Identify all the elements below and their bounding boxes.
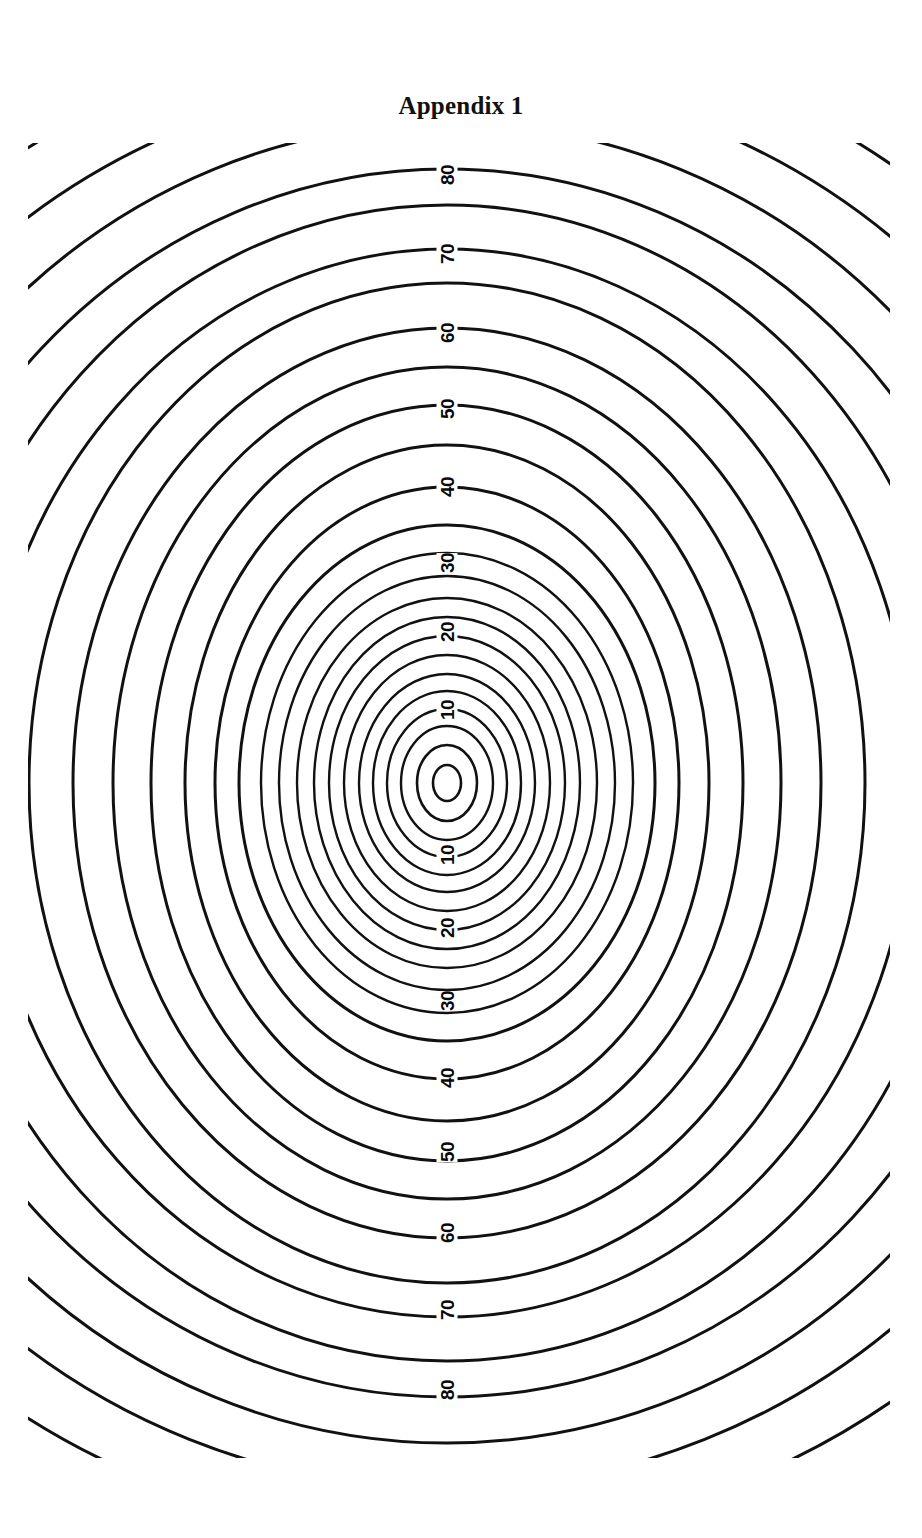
contour-plot-figure: 80706050403020101020304050607080 — [28, 143, 890, 1458]
contour-label: 50 — [437, 1142, 458, 1162]
contour-label: 10 — [437, 700, 458, 720]
contour-ring — [387, 709, 507, 857]
contour-label: 20 — [437, 918, 458, 938]
document-page: Appendix 1 80706050403020101020304050607… — [0, 0, 922, 1538]
contour-ring — [314, 617, 580, 949]
contour-label: 80 — [437, 1380, 458, 1400]
contour-ring — [401, 726, 493, 840]
contour-ring — [329, 636, 565, 930]
contour-label: 80 — [437, 165, 458, 185]
contour-ring — [29, 283, 865, 1283]
contour-ring — [344, 655, 550, 911]
contour-label: 70 — [437, 1300, 458, 1320]
contour-ring — [185, 445, 709, 1121]
contour-rings-group — [28, 143, 890, 1458]
contour-label: 50 — [437, 399, 458, 419]
contour-ring — [417, 745, 477, 821]
contour-label: 30 — [437, 991, 458, 1011]
contour-ring — [297, 598, 597, 968]
contour-label: 20 — [437, 622, 458, 642]
contour-label: 60 — [437, 1223, 458, 1243]
contour-ring — [28, 205, 890, 1361]
contour-label: 70 — [437, 244, 458, 264]
contour-label: 60 — [437, 323, 458, 343]
contour-label: 30 — [437, 553, 458, 573]
contour-lines-svg — [28, 143, 890, 1458]
page-title: Appendix 1 — [0, 92, 922, 120]
contour-ring — [28, 169, 890, 1397]
contour-label: 10 — [437, 845, 458, 865]
contour-ring — [433, 765, 461, 801]
contour-ring — [239, 525, 655, 1041]
contour-ring — [28, 249, 890, 1317]
contour-label: 40 — [437, 477, 458, 497]
contour-label: 40 — [437, 1068, 458, 1088]
